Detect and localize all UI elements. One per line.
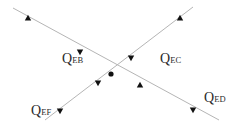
label-qed-sub: ED (214, 94, 226, 104)
label-qef-main: Q (31, 103, 41, 118)
label-qed-main: Q (204, 90, 214, 105)
junction-node-e (108, 71, 113, 76)
label-qeb-main: Q (62, 51, 72, 66)
label-qeb-sub: EB (72, 55, 83, 65)
label-qeb: QEB (62, 52, 83, 67)
label-qec: QEC (160, 52, 181, 67)
arrow-ef-outer-icon (57, 108, 63, 114)
arrow-ed-outer-icon (190, 107, 196, 113)
label-qef: QEF (31, 104, 51, 119)
arrow-ed-inner-icon (137, 82, 143, 88)
arrow-ec-inner-icon (128, 55, 134, 61)
arrow-ef-inner-icon (95, 80, 101, 86)
label-qec-sub: EC (170, 55, 181, 65)
label-qec-main: Q (160, 51, 170, 66)
label-qef-sub: EF (41, 107, 51, 117)
label-qed: QED (204, 91, 226, 106)
